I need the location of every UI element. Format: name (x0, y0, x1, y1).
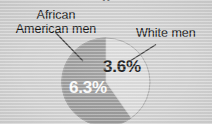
callout-label-line-2: American men (6, 23, 106, 37)
callout-label-african-american-men: African American men (6, 9, 106, 36)
callout-label-line-1: African (6, 9, 106, 23)
callout-label-white-men: White men (136, 27, 196, 41)
pie-chart-figure: p African American men White men 3.6% 6.… (0, 0, 212, 124)
slice-value-label-african-american-men: 6.3% (69, 78, 107, 98)
callout-label-line-1: White men (136, 26, 196, 40)
slice-value-label-white-men: 3.6% (103, 57, 141, 77)
